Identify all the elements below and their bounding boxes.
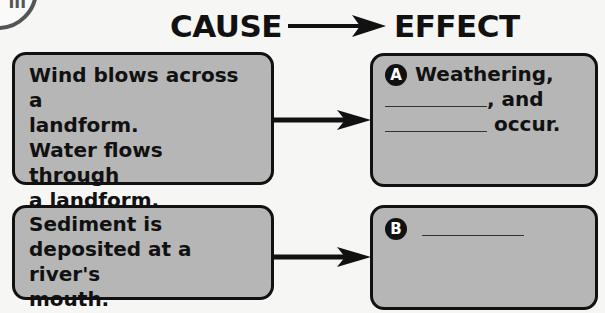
connector-arrow-icon bbox=[273, 109, 371, 131]
cause-text-line: Water flows through bbox=[29, 138, 257, 188]
cause-effect-header: CAUSE EFFECT bbox=[170, 6, 520, 46]
effect-text: , and bbox=[487, 87, 544, 111]
cause-box-1: Wind blows across a landform. Water flow… bbox=[12, 52, 274, 185]
answer-blank-2[interactable] bbox=[385, 119, 487, 132]
effect-text: occur. bbox=[494, 112, 560, 136]
effect-box-a: AWeathering, , and occur. bbox=[370, 53, 598, 187]
cause-heading: CAUSE bbox=[170, 8, 282, 44]
cause-text-line: Wind blows across a bbox=[29, 63, 257, 113]
skill-badge-label: ill bbox=[9, 0, 26, 12]
skill-badge: ill bbox=[0, 0, 38, 30]
answer-blank-3[interactable] bbox=[422, 223, 524, 236]
cause-text-line: landform. bbox=[29, 113, 257, 138]
cause-text-line: mouth. bbox=[29, 287, 257, 312]
connector-arrow-icon bbox=[273, 246, 371, 268]
cause-text-line: Sediment is bbox=[29, 212, 257, 237]
effect-heading: EFFECT bbox=[394, 8, 520, 44]
effect-text: Weathering, bbox=[415, 62, 554, 86]
cause-box-2: Sediment is deposited at a river's mouth… bbox=[12, 205, 274, 300]
marker-b-icon: B bbox=[385, 218, 407, 240]
marker-a-icon: A bbox=[385, 64, 407, 86]
right-arrow-icon bbox=[288, 11, 386, 41]
effect-box-b: B bbox=[370, 205, 598, 310]
answer-blank-1[interactable] bbox=[385, 94, 487, 107]
cause-text-line: deposited at a river's bbox=[29, 237, 257, 287]
